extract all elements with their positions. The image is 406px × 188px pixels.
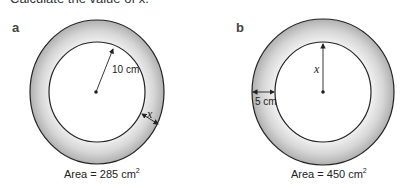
area-value-b: Area = 450 cm: [291, 168, 363, 180]
unknown-label-a: x: [147, 107, 152, 122]
given-label-a: 10 cm: [112, 64, 139, 75]
area-label-b: Area = 450 cm2: [291, 167, 367, 180]
area-label-a: Area = 285 cm2: [64, 167, 140, 180]
given-label-b: 5 cm: [255, 96, 277, 107]
ring-diagram-b: [252, 19, 394, 165]
ring-diagram-a: [30, 20, 164, 164]
unknown-label-b: x: [314, 62, 319, 77]
diagrams: [0, 0, 406, 188]
area-exponent-b: 2: [363, 167, 367, 174]
area-value-a: Area = 285 cm: [64, 168, 136, 180]
area-exponent-a: 2: [136, 167, 140, 174]
